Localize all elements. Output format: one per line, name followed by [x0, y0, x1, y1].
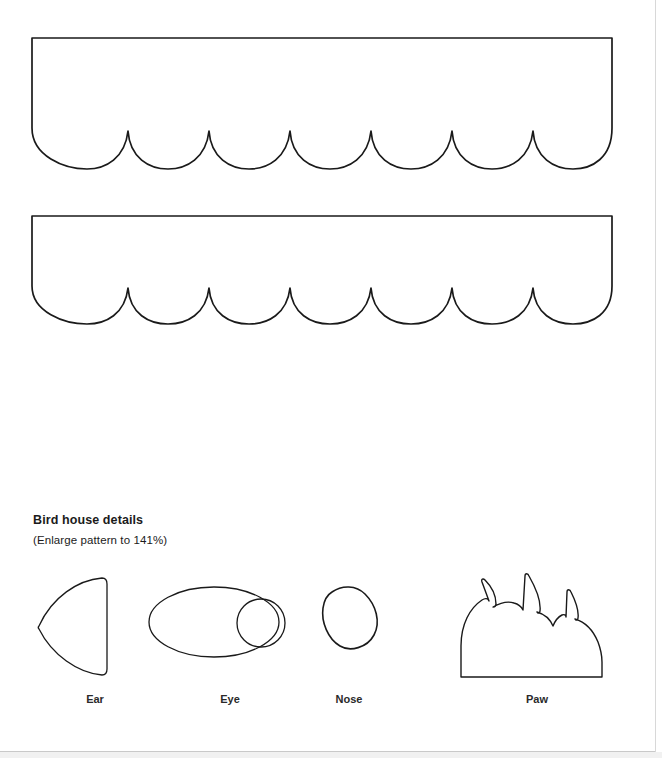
pattern-piece-roof-small: [24, 214, 624, 334]
detail-piece-eye: [144, 578, 304, 668]
pattern-piece-roof-large: [24, 36, 624, 176]
details-subheading: (Enlarge pattern to 141%): [33, 534, 167, 546]
detail-label-nose: Nose: [336, 693, 363, 705]
page-bottom-shadow: [0, 752, 662, 758]
details-heading: Bird house details: [33, 513, 143, 527]
detail-label-ear: Ear: [86, 693, 104, 705]
pattern-page-sheet: Bird house details (Enlarge pattern to 1…: [0, 0, 656, 752]
page-right-edge: [655, 0, 656, 752]
detail-piece-nose: [312, 580, 392, 660]
detail-piece-paw: [452, 570, 622, 685]
detail-piece-ear: [30, 574, 140, 679]
detail-label-paw: Paw: [526, 693, 548, 705]
eye-pupil-circle: [237, 599, 285, 647]
detail-label-eye: Eye: [220, 693, 240, 705]
